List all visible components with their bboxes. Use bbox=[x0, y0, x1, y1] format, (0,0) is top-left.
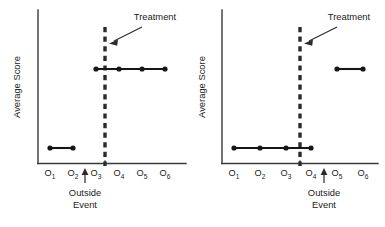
x-tick-label-o4-left: O4 bbox=[114, 168, 125, 180]
x-tick-label-o1-right: O1 bbox=[229, 168, 240, 180]
x-tick-labels-right: O1 O2 O3 O4 O5 O6 bbox=[229, 168, 369, 180]
data-point-o1-left bbox=[47, 145, 52, 150]
y-axis-label-right: Average Score bbox=[196, 56, 207, 118]
data-point-o4-right bbox=[308, 145, 313, 150]
data-point-o5-left bbox=[139, 66, 144, 71]
data-point-o3-right bbox=[283, 145, 288, 150]
x-tick-label-o6-left: O6 bbox=[160, 168, 171, 180]
treatment-annotation-arrow-left bbox=[114, 27, 142, 41]
x-tick-label-o4-right: O4 bbox=[306, 168, 317, 180]
y-axis-label-left: Average Score bbox=[11, 56, 22, 118]
x-tick-label-o5-right: O5 bbox=[332, 168, 343, 180]
chart-panel-left: Average Score Treatment O1 O2 O3 O4 bbox=[0, 0, 192, 227]
data-point-o3-left bbox=[93, 66, 98, 71]
figure-root: Average Score Treatment O1 O2 O3 O4 bbox=[0, 0, 385, 227]
x-tick-labels-left: O1 O2 O3 O4 O5 O6 bbox=[45, 168, 171, 180]
treatment-annotation-label-right: Treatment bbox=[328, 11, 371, 22]
data-point-o6-left bbox=[162, 66, 167, 71]
data-point-o2-right bbox=[257, 145, 262, 150]
data-point-o2-left bbox=[70, 145, 75, 150]
treatment-annotation-arrowhead-left bbox=[109, 40, 118, 46]
x-tick-label-o3-right: O3 bbox=[281, 168, 292, 180]
outside-event-label-line2-right: Event bbox=[312, 199, 336, 210]
data-point-o4-left bbox=[116, 66, 121, 71]
x-tick-label-o5-left: O5 bbox=[137, 168, 148, 180]
data-point-o5-right bbox=[334, 66, 339, 71]
data-point-o6-right bbox=[360, 66, 365, 71]
chart-panel-right: Average Score Treatment O1 O2 O3 O4 bbox=[192, 0, 384, 227]
treatment-annotation-arrowhead-right bbox=[304, 40, 313, 46]
outside-event-arrowhead-right bbox=[321, 168, 328, 175]
treatment-annotation-label-left: Treatment bbox=[134, 11, 177, 22]
x-tick-label-o3-left: O3 bbox=[91, 168, 102, 180]
treatment-annotation-arrow-right bbox=[309, 27, 337, 41]
outside-event-label-line1-right: Outside bbox=[308, 187, 340, 198]
outside-event-arrowhead-left bbox=[82, 168, 89, 175]
data-point-o1-right bbox=[231, 145, 236, 150]
outside-event-label-line2-left: Event bbox=[73, 199, 97, 210]
x-tick-label-o2-left: O2 bbox=[68, 168, 79, 180]
outside-event-label-line1-left: Outside bbox=[69, 187, 101, 198]
x-tick-label-o1-left: O1 bbox=[45, 168, 56, 180]
x-tick-label-o2-right: O2 bbox=[255, 168, 266, 180]
x-tick-label-o6-right: O6 bbox=[358, 168, 369, 180]
